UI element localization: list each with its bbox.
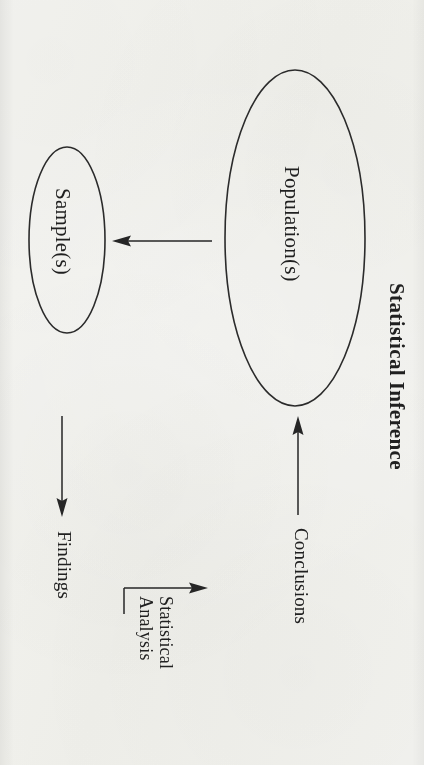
sampling-arrow [112, 236, 212, 247]
diagram-canvas [0, 0, 424, 765]
conclusions-label: Conclusions [291, 528, 311, 624]
conclusions-arrow [293, 416, 304, 515]
statistical-analysis-label-line-2: Analysis [136, 596, 155, 661]
scanned-page: Population(s) Sample(s) Statistical Infe… [0, 0, 424, 765]
statistical-analysis-label-line-1: Statistical [156, 596, 175, 669]
findings-label: Findings [54, 531, 74, 599]
findings-arrow [57, 416, 68, 517]
population-label: Population(s) [281, 166, 303, 282]
sample-label: Sample(s) [52, 188, 74, 275]
page-title: Statistical Inference [386, 283, 408, 470]
